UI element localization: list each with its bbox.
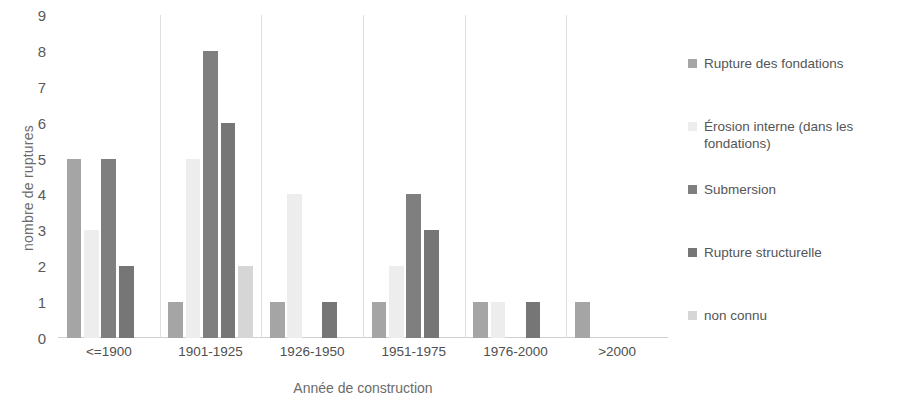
bar[interactable] [101, 159, 116, 338]
bar[interactable] [473, 302, 488, 338]
y-axis-tick-label: 5 [28, 152, 46, 167]
y-axis-tick-label: 2 [28, 259, 46, 274]
bar[interactable] [168, 302, 183, 338]
bar-group [261, 15, 363, 338]
bar[interactable] [526, 302, 541, 338]
bar[interactable] [203, 51, 218, 338]
bar[interactable] [389, 266, 404, 338]
bar[interactable] [406, 194, 421, 338]
bar[interactable] [372, 302, 387, 338]
legend-item-non-connu[interactable]: non connu [688, 307, 767, 324]
y-axis-tick-label: 0 [28, 331, 46, 346]
bar-chart-figure: nombre de ruptures 9 8 7 6 5 4 3 2 1 0 <… [0, 0, 922, 409]
x-axis-tick-label: 1976-2000 [465, 344, 567, 359]
y-axis-tick-label: 7 [28, 80, 46, 95]
bar-group [58, 15, 160, 338]
y-axis-tick-label: 4 [28, 187, 46, 202]
bar[interactable] [575, 302, 590, 338]
y-axis-tick-label: 3 [28, 223, 46, 238]
bar[interactable] [270, 302, 285, 338]
bar[interactable] [491, 302, 506, 338]
plot-area [58, 15, 668, 338]
bar-group [160, 15, 262, 338]
x-axis-tick-label: 1901-1925 [160, 344, 262, 359]
legend-item-rupture-structurelle[interactable]: Rupture structurelle [688, 244, 822, 261]
y-axis-tick-label: 8 [28, 44, 46, 59]
x-axis-tick-label: 1951-1975 [363, 344, 465, 359]
legend-item-label: Submersion [704, 181, 776, 198]
bar-group [566, 15, 668, 338]
legend-item-label: Érosion interne (dans les fondations) [704, 118, 853, 152]
legend-swatch-icon [688, 59, 697, 68]
y-axis-tick-label: 9 [28, 8, 46, 23]
legend-swatch-icon [688, 185, 697, 194]
x-axis-tick-label: >2000 [566, 344, 668, 359]
bar[interactable] [221, 123, 236, 338]
bar-group [465, 15, 567, 338]
legend-swatch-icon [688, 311, 697, 320]
legend-item-label: Rupture structurelle [704, 244, 822, 261]
x-axis-title: Année de construction [58, 380, 668, 396]
legend-item-label: non connu [704, 307, 767, 324]
y-axis-tick-label: 1 [28, 295, 46, 310]
bar[interactable] [424, 230, 439, 338]
y-axis-tick-label: 6 [28, 116, 46, 131]
bar-group [363, 15, 465, 338]
legend-item-rupture-des-fondations[interactable]: Rupture des fondations [688, 55, 844, 72]
bar[interactable] [84, 230, 99, 338]
x-axis-tick-label: <=1900 [58, 344, 160, 359]
bar[interactable] [287, 194, 302, 338]
bar[interactable] [238, 266, 253, 338]
legend-item-label: Rupture des fondations [704, 55, 844, 72]
bar[interactable] [186, 159, 201, 338]
legend-swatch-icon [688, 248, 697, 257]
bar[interactable] [322, 302, 337, 338]
legend-swatch-icon [688, 122, 697, 131]
legend-item-submersion[interactable]: Submersion [688, 181, 776, 198]
legend-item-erosion-interne[interactable]: Érosion interne (dans les fondations) [688, 118, 853, 152]
bar[interactable] [67, 159, 82, 338]
x-axis-tick-label: 1926-1950 [261, 344, 363, 359]
bar[interactable] [119, 266, 134, 338]
